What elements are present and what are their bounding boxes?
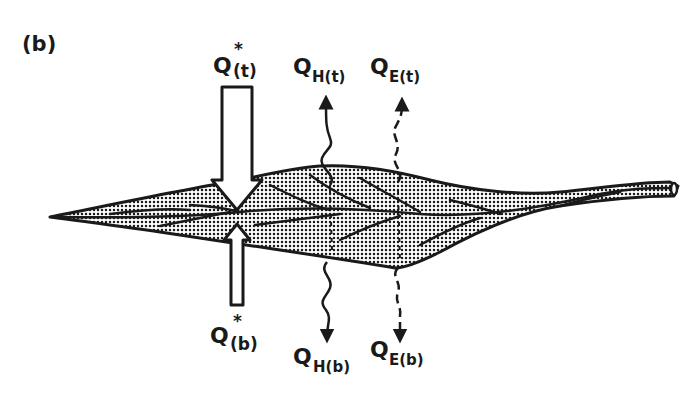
- svg-text:E(b): E(b): [389, 351, 424, 369]
- svg-text:*: *: [233, 311, 242, 331]
- label-qe-bottom: Q E(b): [370, 337, 424, 369]
- label-qe-top: Q E(t): [370, 54, 420, 86]
- svg-text:Q: Q: [293, 54, 312, 79]
- svg-text:H(t): H(t): [312, 68, 345, 86]
- svg-text:Q: Q: [370, 54, 389, 79]
- svg-text:Q: Q: [293, 344, 312, 369]
- svg-text:(b): (b): [230, 334, 258, 354]
- svg-text:Q: Q: [213, 53, 232, 78]
- qe-bottom-arrow: [395, 268, 400, 336]
- panel-label: (b): [22, 32, 56, 56]
- q-star-bottom-arrow: [224, 224, 250, 305]
- svg-text:(t): (t): [233, 61, 257, 81]
- svg-text:Q: Q: [210, 323, 229, 348]
- leaf-energy-balance-diagram: (b) Q * (t) Q H(t) Q E(t) Q * (b) Q H(b)…: [0, 0, 696, 393]
- petiole-tip: [671, 183, 677, 195]
- label-q-star-bottom: Q * (b): [210, 311, 258, 354]
- label-qh-bottom: Q H(b): [293, 344, 350, 376]
- svg-text:Q: Q: [370, 337, 389, 362]
- qe-top-arrow: [394, 104, 402, 182]
- svg-text:H(b): H(b): [313, 358, 350, 376]
- svg-text:*: *: [234, 39, 243, 59]
- label-q-star-top: Q * (t): [213, 39, 257, 81]
- qh-bottom-arrow: [323, 262, 331, 336]
- label-qh-top: Q H(t): [293, 54, 345, 86]
- svg-text:E(t): E(t): [389, 68, 420, 86]
